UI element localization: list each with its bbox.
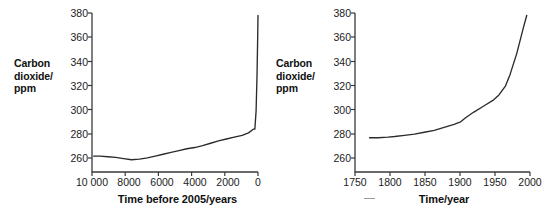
chart-panel-left: Carbon dioxide/ ppm 260 280 300 320 340 … [0,0,271,217]
axis-lines-right [355,13,530,172]
axis-lines-left [92,13,258,172]
co2-line-left [94,15,258,159]
co2-line-right [370,15,527,137]
stray-dash-artifact [364,198,375,199]
co2-figure: Carbon dioxide/ ppm 260 280 300 320 340 … [0,0,542,217]
plot-area-left [0,0,271,217]
plot-area-right [271,0,542,217]
chart-panel-right: Carbon dioxide/ ppm 260 280 300 320 340 … [271,0,542,217]
